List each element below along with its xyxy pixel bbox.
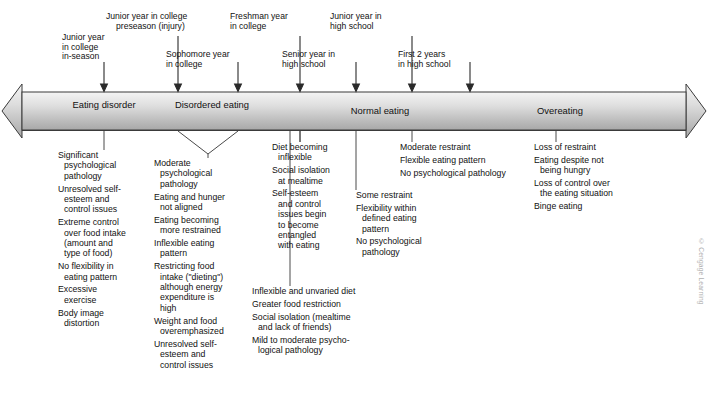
eating-continuum-figure: Eating disorder Disordered eating Normal… [0,0,708,410]
stage-label-eating-disorder: Eating disorder [44,100,164,111]
list-item: Body imagedistortion [58,308,154,329]
list-item: Some restraint [356,190,464,200]
column-moderate-restraint-traits: Moderate restraint Flexible eating patte… [400,142,550,180]
list-item: Loss of control overthe eating situation [534,178,664,199]
list-item: Extreme controlover food intake(amount a… [58,217,154,259]
list-item: Flexible eating pattern [400,155,550,165]
list-item: Inflexible and unvaried diet [252,286,382,296]
list-item: Excessiveexercise [58,284,154,305]
callout-freshman-year-college: Freshman year in college [230,12,288,31]
list-item: Binge eating [534,201,664,211]
column-diet-becoming-inflexible-traits: Diet becominginflexible Social isolation… [272,142,364,253]
stage-label-normal-eating: Normal eating [310,106,450,117]
callout-senior-year-high-school: Senior year in high school [282,50,335,69]
column-disordered-eating-traits: Moderatepsychologicalpathology Eating an… [154,158,258,372]
list-item: No flexibility ineating pattern [58,261,154,282]
list-item: Social isolationat mealtime [272,165,364,186]
list-item: Eating becomingmore restrained [154,215,258,236]
list-item: Self-esteemand controlissues beginto bec… [272,188,364,250]
callout-sophomore-year-college: Sophomore year in college [166,50,230,69]
stage-label-disordered-eating: Disordered eating [152,100,272,111]
copyright-credit: © Cengage Learning [698,238,705,305]
stage-label-overeating: Overeating [490,106,630,117]
list-item: Restricting foodintake ("dieting")althou… [154,261,258,313]
column-eating-disorder-traits: Significantpsychologicalpathology Unreso… [58,150,154,331]
list-item: Significantpsychologicalpathology [58,150,154,181]
column-some-restraint-traits: Some restraint Flexibility withindefined… [356,190,464,260]
callout-junior-year-college-in-season: Junior year in college in-season [62,33,105,62]
callout-first-2-years-high-school: First 2 years in high school [398,50,451,69]
list-item: Inflexible eatingpattern [154,238,258,259]
right-arrowhead [686,84,706,138]
list-item: Mild to moderate psycho-logical patholog… [252,335,382,356]
list-item: No psychological pathology [400,168,550,178]
list-item: Moderatepsychologicalpathology [154,158,258,189]
figure-caption [22,399,682,409]
list-item: Eating and hungernot aligned [154,192,258,213]
list-item: Unresolved self-esteem andcontrol issues [58,184,154,215]
left-arrowhead [2,84,22,138]
list-item: Moderate restraint [400,142,550,152]
list-item: Eating despite notbeing hungry [534,155,664,176]
list-item: Loss of restraint [534,142,664,152]
column-overeating-traits: Loss of restraint Eating despite notbein… [534,142,664,214]
list-item: No psychologicalpathology [356,236,464,257]
list-item: Weight and foodoveremphasized [154,316,258,337]
list-item: Flexibility withindefined eatingpattern [356,203,464,234]
callout-junior-year-high-school: Junior year in high school [330,12,382,31]
list-item: Greater food restriction [252,299,382,309]
list-item: Social isolation (mealtimeand lack of fr… [252,312,382,333]
callout-junior-year-college-preseason: Junior year in college preseason (injury… [106,12,187,31]
list-item: Diet becominginflexible [272,142,364,163]
list-item: Unresolved self-esteem andcontrol issues [154,339,258,370]
column-inflexible-unvaried-diet-traits: Inflexible and unvaried diet Greater foo… [252,286,382,358]
